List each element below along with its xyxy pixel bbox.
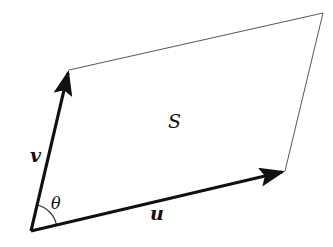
label-v: v bbox=[30, 144, 42, 166]
edge-right bbox=[285, 13, 323, 171]
label-u: u bbox=[150, 202, 164, 224]
label-region-s: S bbox=[168, 110, 181, 132]
edge-top bbox=[69, 13, 323, 70]
parallelogram-diagram: v u θ S bbox=[0, 0, 333, 247]
label-theta: θ bbox=[51, 194, 61, 213]
